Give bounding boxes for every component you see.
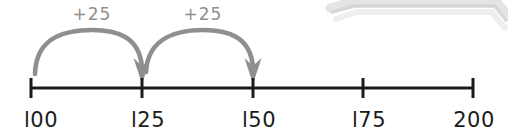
tick-label-200: 200 [453, 108, 495, 132]
tick-label-175: l75 [352, 108, 386, 132]
tick-label-125: l25 [131, 108, 165, 132]
tick-label-100: l00 [24, 108, 58, 132]
tick-label-150: l50 [242, 108, 276, 132]
hop-arrow-1 [35, 30, 151, 84]
number-line-svg: l00 l25 l50 l75 200 +25 +25 [0, 0, 508, 136]
scan-artifact-decoration [330, 2, 507, 28]
hop-arrow-2 [146, 30, 262, 84]
hop-label-2: +25 [184, 4, 223, 24]
number-line-figure: l00 l25 l50 l75 200 +25 +25 [0, 0, 508, 136]
hop-label-1: +25 [73, 4, 112, 24]
